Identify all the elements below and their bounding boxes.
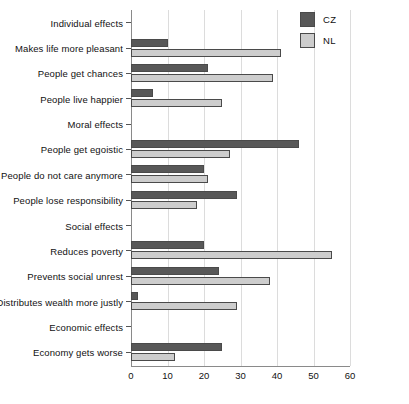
x-axis-line bbox=[131, 366, 350, 367]
gridline-60 bbox=[350, 10, 351, 366]
legend-swatch-nl bbox=[300, 33, 315, 48]
category-label: Prevents social unrest bbox=[27, 271, 123, 282]
bar-nl bbox=[131, 99, 222, 107]
chart-row: Economic effects bbox=[131, 314, 350, 339]
bar-cz bbox=[131, 292, 138, 300]
category-label: People live happier bbox=[40, 93, 123, 104]
x-axis-tick-labels: 0102030405060 bbox=[131, 370, 350, 386]
x-tick-label: 60 bbox=[345, 370, 356, 381]
x-tick-label: 40 bbox=[272, 370, 283, 381]
y-axis-tick bbox=[126, 225, 131, 226]
bar-nl bbox=[131, 302, 237, 310]
category-label: People get egoistic bbox=[41, 144, 123, 155]
chart-row: Moral effects bbox=[131, 111, 350, 136]
bar-cz bbox=[131, 140, 299, 148]
chart-row: People get chances bbox=[131, 61, 350, 86]
chart-row: People lose responsibility bbox=[131, 188, 350, 213]
category-label: Economic effects bbox=[49, 321, 123, 332]
category-label: People do not care anymore bbox=[1, 169, 123, 180]
bar-nl bbox=[131, 251, 332, 259]
y-axis-tick bbox=[126, 22, 131, 23]
bar-cz bbox=[131, 89, 153, 97]
category-label: Reduces poverty bbox=[50, 245, 123, 256]
chart-row: Social effects bbox=[131, 213, 350, 238]
plot-area: Individual effectsMakes life more pleasa… bbox=[131, 10, 350, 365]
category-label: Social effects bbox=[65, 220, 123, 231]
bar-cz bbox=[131, 267, 219, 275]
category-label: People get chances bbox=[38, 68, 123, 79]
y-axis-tick bbox=[126, 326, 131, 327]
bar-cz bbox=[131, 343, 222, 351]
category-label: Individual effects bbox=[51, 17, 123, 28]
chart-row: Distributes wealth more justly bbox=[131, 289, 350, 314]
bar-cz bbox=[131, 64, 208, 72]
category-rows: Individual effectsMakes life more pleasa… bbox=[131, 10, 350, 365]
bar-cz bbox=[131, 165, 204, 173]
chart-row: Economy gets worse bbox=[131, 340, 350, 365]
legend-swatch-cz bbox=[300, 12, 315, 27]
bar-chart: Individual effectsMakes life more pleasa… bbox=[0, 0, 409, 404]
category-label: Makes life more pleasant bbox=[15, 43, 123, 54]
bar-cz bbox=[131, 39, 168, 47]
bar-nl bbox=[131, 175, 208, 183]
bar-nl bbox=[131, 277, 270, 285]
category-label: Moral effects bbox=[67, 119, 123, 130]
legend-label: NL bbox=[323, 35, 336, 46]
legend-item-nl[interactable]: NL bbox=[300, 33, 400, 48]
x-tick-label: 50 bbox=[308, 370, 319, 381]
chart-row: People get egoistic bbox=[131, 137, 350, 162]
bar-cz bbox=[131, 241, 204, 249]
chart-legend: CZNL bbox=[300, 12, 400, 54]
x-tick-label: 0 bbox=[128, 370, 133, 381]
category-label: People lose responsibility bbox=[13, 195, 123, 206]
x-tick-label: 10 bbox=[162, 370, 173, 381]
bar-nl bbox=[131, 74, 273, 82]
bar-nl bbox=[131, 201, 197, 209]
chart-row: Reduces poverty bbox=[131, 238, 350, 263]
x-tick-label: 30 bbox=[235, 370, 246, 381]
category-label: Economy gets worse bbox=[33, 347, 123, 358]
bar-nl bbox=[131, 353, 175, 361]
chart-row: People live happier bbox=[131, 86, 350, 111]
x-tick-label: 20 bbox=[199, 370, 210, 381]
category-label: Distributes wealth more justly bbox=[0, 296, 123, 307]
y-axis-tick bbox=[126, 124, 131, 125]
chart-row: People do not care anymore bbox=[131, 162, 350, 187]
legend-item-cz[interactable]: CZ bbox=[300, 12, 400, 27]
bar-nl bbox=[131, 49, 281, 57]
legend-label: CZ bbox=[323, 14, 336, 25]
bar-cz bbox=[131, 191, 237, 199]
bar-nl bbox=[131, 150, 230, 158]
chart-row: Prevents social unrest bbox=[131, 264, 350, 289]
